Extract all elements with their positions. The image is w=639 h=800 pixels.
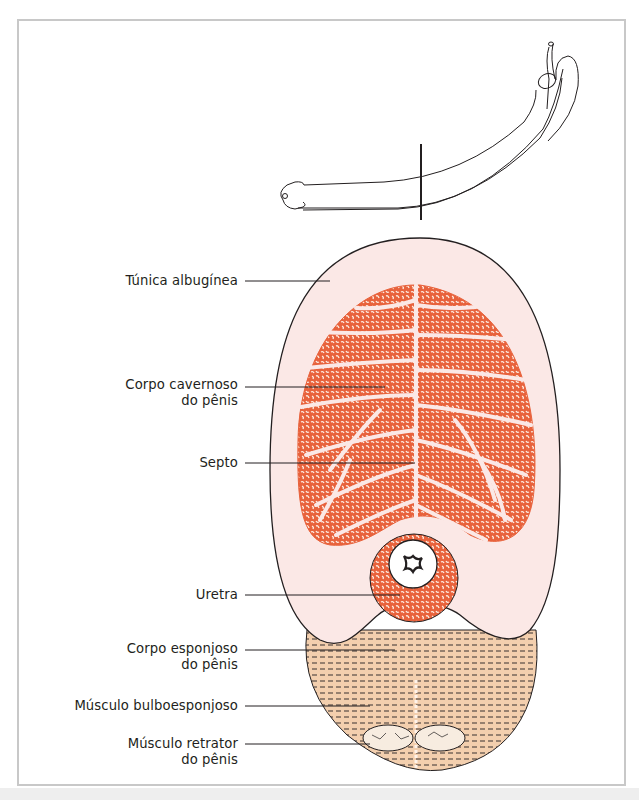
retractor-muscle-left: [363, 725, 413, 751]
label-text: do pênis: [125, 393, 238, 409]
label-text: Septo: [199, 455, 238, 471]
bulbospongiosus-muscle: [306, 630, 537, 771]
label-musculo-bulboesponjoso: Músculo bulboesponjoso: [74, 698, 238, 714]
label-musculo-retrator: Músculo retrator do pênis: [128, 736, 238, 768]
label-text: Músculo bulboesponjoso: [74, 698, 238, 714]
label-uretra: Uretra: [196, 587, 238, 603]
side-view-sketch: [281, 42, 579, 210]
label-text: Uretra: [196, 587, 238, 603]
label-text: Corpo esponjoso: [127, 641, 238, 657]
label-text: Corpo cavernoso: [125, 377, 238, 393]
label-text: Músculo retrator: [128, 736, 238, 752]
label-text: do pênis: [127, 657, 238, 673]
label-septo: Septo: [199, 455, 238, 471]
label-corpo-cavernoso: Corpo cavernoso do pênis: [125, 377, 238, 409]
label-text: do pênis: [128, 752, 238, 768]
label-text: Túnica albugínea: [125, 273, 238, 289]
label-tunica-albuginea: Túnica albugínea: [125, 273, 238, 289]
retractor-muscle-right: [415, 725, 465, 751]
anatomy-illustration: [0, 0, 639, 800]
label-corpo-esponjoso: Corpo esponjoso do pênis: [127, 641, 238, 673]
